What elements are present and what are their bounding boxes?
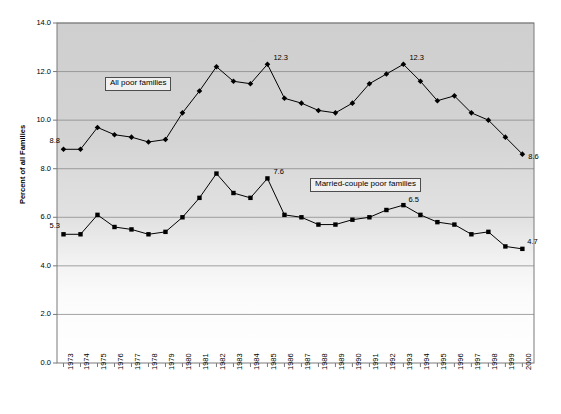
- y-tick-label: 2.0: [15, 310, 51, 318]
- x-tick-label: 1988: [321, 353, 329, 370]
- x-tick-label: 1995: [440, 353, 448, 370]
- y-tick-label: 0.0: [15, 359, 51, 367]
- x-tick-label: 1989: [338, 353, 346, 370]
- x-tick-label: 1977: [134, 353, 142, 370]
- data-point-label: 5.3: [50, 222, 60, 230]
- x-tick-label: 1994: [423, 353, 431, 370]
- plot-background: [57, 23, 534, 363]
- y-tick-label: 6.0: [15, 213, 51, 221]
- y-tick-label: 4.0: [15, 262, 51, 270]
- x-tick-label: 1998: [491, 353, 499, 370]
- x-tick-label: 1987: [304, 353, 312, 370]
- x-tick-label: 1974: [83, 353, 91, 370]
- data-point-label: 12.3: [409, 54, 424, 62]
- x-tick-label: 1973: [67, 353, 75, 370]
- x-tick-label: 1999: [508, 353, 516, 370]
- x-tick-label: 1991: [372, 353, 380, 370]
- x-tick-label: 1975: [100, 353, 108, 370]
- x-tick-label: 1993: [406, 353, 414, 370]
- x-tick-label: 1990: [355, 353, 363, 370]
- data-point-label: 8.8: [50, 137, 60, 145]
- x-tick-label: 1981: [202, 353, 210, 370]
- x-tick-label: 1992: [389, 353, 397, 370]
- y-tick-label: 14.0: [15, 19, 51, 27]
- x-tick-label: 1976: [117, 353, 125, 370]
- x-tick-label: 1980: [185, 353, 193, 370]
- data-point-label: 6.5: [408, 196, 418, 204]
- x-tick-label: 1986: [287, 353, 295, 370]
- x-tick-label: 1983: [236, 353, 244, 370]
- data-point-label: 4.7: [527, 238, 537, 246]
- x-tick-label: 1997: [474, 353, 482, 370]
- x-tick-label: 1979: [168, 353, 176, 370]
- series-label-married-couple-poor-families: Married-couple poor families: [310, 178, 421, 192]
- x-tick-label: 1996: [457, 353, 465, 370]
- x-tick-label: 1978: [151, 353, 159, 370]
- data-point-label: 8.6: [528, 153, 538, 161]
- x-tick-label: 1982: [219, 353, 227, 370]
- data-point-label: 12.3: [273, 54, 288, 62]
- y-tick-label: 10.0: [15, 116, 51, 124]
- y-tick-label: 8.0: [15, 165, 51, 173]
- plot-area: [0, 0, 561, 414]
- data-point-label: 7.6: [273, 168, 283, 176]
- x-tick-label: 1984: [253, 353, 261, 370]
- x-tick-label: 1985: [270, 353, 278, 370]
- series-label-all-poor-families: All poor families: [105, 77, 171, 91]
- x-tick-label: 2000: [525, 353, 533, 370]
- y-tick-label: 12.0: [15, 68, 51, 76]
- chart-container: Percent of all Families 0.02.04.06.08.01…: [0, 0, 561, 414]
